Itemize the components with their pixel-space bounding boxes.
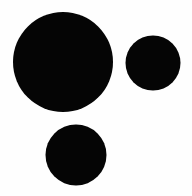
image-canvas: Three solid black filled circles of diff… [0, 0, 192, 196]
circles-illustration [0, 0, 192, 196]
small-circle [46, 125, 107, 186]
medium-circle [126, 36, 181, 91]
large-circle [13, 12, 113, 112]
